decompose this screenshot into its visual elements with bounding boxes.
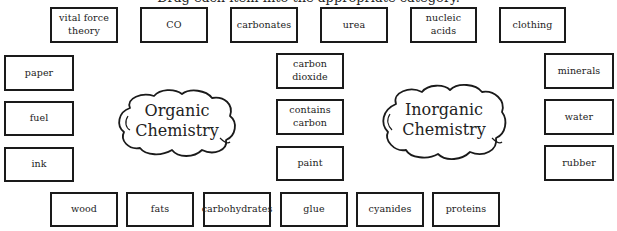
card-urea[interactable]: urea (320, 7, 388, 43)
card-label: water (563, 111, 595, 124)
card-clothing[interactable]: clothing (499, 7, 566, 43)
card-label: fuel (28, 112, 51, 125)
card-label: rubber (560, 157, 598, 170)
card-fuel[interactable]: fuel (4, 101, 74, 136)
card-label: carbon dioxide (278, 58, 342, 84)
card-label: cyanides (367, 203, 414, 216)
card-label: fats (149, 203, 171, 216)
card-label: wood (69, 203, 99, 216)
drop-zone-inorganic-chemistry[interactable]: Inorganic Chemistry (380, 80, 508, 162)
card-co[interactable]: CO (140, 7, 208, 43)
card-label: paint (295, 157, 324, 170)
card-fats[interactable]: fats (126, 192, 194, 227)
card-label: nucleic acids (412, 12, 475, 38)
card-carbohydrates[interactable]: carbohydrates (203, 192, 271, 227)
card-cyanides[interactable]: cyanides (356, 192, 424, 227)
card-label: minerals (556, 65, 603, 78)
card-minerals[interactable]: minerals (544, 53, 614, 89)
cloud-label: Organic Chemistry (116, 101, 238, 141)
instruction-text: Drag each item into the appropriate cate… (0, 0, 617, 5)
card-contains-carbon[interactable]: contains carbon (276, 99, 344, 135)
card-label: paper (23, 67, 56, 80)
cloud-label-line1: Organic (116, 101, 238, 121)
card-wood[interactable]: wood (50, 192, 118, 227)
card-label: clothing (510, 19, 554, 32)
card-label: glue (301, 203, 326, 216)
card-label: carbohydrates (200, 203, 275, 216)
card-vital-force-theory[interactable]: vital forcetheory (50, 7, 118, 43)
cloud-label: Inorganic Chemistry (380, 100, 508, 140)
card-carbonates[interactable]: carbonates (230, 7, 298, 43)
card-carbon-dioxide[interactable]: carbon dioxide (276, 53, 344, 89)
cloud-label-line2: Chemistry (380, 120, 508, 140)
card-label: ink (29, 158, 48, 171)
cloud-label-line2: Chemistry (116, 121, 238, 141)
card-rubber[interactable]: rubber (544, 145, 614, 181)
card-label: urea (341, 19, 367, 32)
card-nucleic-acids[interactable]: nucleic acids (410, 7, 477, 43)
card-label-line2: theory (57, 25, 111, 38)
card-ink[interactable]: ink (4, 147, 74, 182)
drop-zone-organic-chemistry[interactable]: Organic Chemistry (116, 86, 238, 158)
card-water[interactable]: water (544, 99, 614, 135)
card-glue[interactable]: glue (280, 192, 348, 227)
card-label-line1: vital force (57, 12, 111, 25)
card-paint[interactable]: paint (276, 146, 344, 181)
card-paper[interactable]: paper (4, 55, 74, 91)
card-label: carbonates (235, 19, 293, 32)
card-label: contains carbon (278, 104, 342, 130)
card-proteins[interactable]: proteins (432, 192, 500, 227)
cloud-label-line1: Inorganic (380, 100, 508, 120)
card-label: proteins (444, 203, 489, 216)
card-label: CO (164, 19, 183, 32)
